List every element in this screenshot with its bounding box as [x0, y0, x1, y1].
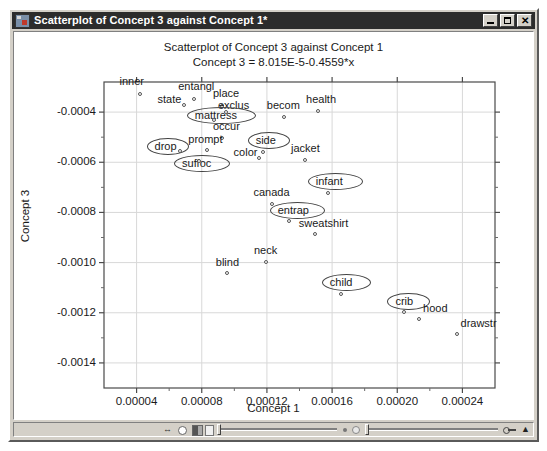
point-label: color: [234, 146, 258, 158]
y-tick-label: -0.0004: [34, 105, 96, 117]
data-point[interactable]: [192, 97, 196, 101]
data-point[interactable]: [205, 148, 209, 152]
point-label: crib: [395, 295, 413, 307]
data-point[interactable]: [417, 317, 421, 321]
point-label: prompt: [188, 133, 222, 145]
data-point[interactable]: [178, 149, 182, 153]
point-label: state: [157, 93, 181, 105]
y-tick-label: -0.0010: [34, 256, 96, 268]
window-controls: ✕: [483, 14, 535, 27]
key-icon[interactable]: [503, 426, 516, 433]
data-point[interactable]: [339, 292, 343, 296]
light-square-icon[interactable]: [205, 425, 214, 436]
point-label: jacket: [291, 142, 320, 154]
data-point[interactable]: [313, 232, 317, 236]
x-axis-label: Concept 1: [14, 402, 533, 414]
point-label: entrap: [278, 204, 309, 216]
point-label: infant: [316, 175, 343, 187]
undo-arrows-icon[interactable]: ↔: [162, 424, 173, 435]
data-point[interactable]: [225, 271, 229, 275]
y-tick-label: -0.0012: [34, 306, 96, 318]
y-tick-label: -0.0008: [34, 205, 96, 217]
left-slider-track[interactable]: [221, 428, 337, 431]
point-label: becom: [267, 99, 300, 111]
point-label: place: [213, 87, 239, 99]
title-bar[interactable]: Scatterplot of Concept 3 against Concept…: [12, 12, 535, 29]
point-label: hood: [423, 302, 447, 314]
point-label: blind: [216, 256, 239, 268]
data-point[interactable]: [257, 156, 261, 160]
data-point[interactable]: [326, 191, 330, 195]
point-label: drop: [155, 140, 177, 152]
scatterplot: Scatterplot of Concept 3 against Concept…: [14, 32, 533, 419]
point-label: side: [256, 134, 276, 146]
data-point[interactable]: [455, 332, 459, 336]
data-point[interactable]: [264, 260, 268, 264]
data-point[interactable]: [316, 109, 320, 113]
point-label: occur: [213, 120, 240, 132]
circle-icon[interactable]: [178, 426, 187, 435]
y-tick-label: -0.0006: [34, 155, 96, 167]
point-label: drawstr: [461, 317, 497, 329]
data-point[interactable]: [261, 150, 265, 154]
point-label: inner: [119, 75, 143, 87]
minimize-button[interactable]: [483, 14, 498, 27]
y-tick-label: -0.0014: [34, 356, 96, 368]
data-point[interactable]: [402, 310, 406, 314]
slider-tick-dot: [343, 428, 347, 432]
chart-client-area: Scatterplot of Concept 3 against Concept…: [13, 31, 534, 420]
y-axis-label: Concept 3: [19, 171, 31, 261]
data-point[interactable]: [182, 103, 186, 107]
point-label: sweatshirt: [299, 217, 349, 229]
window-title: Scatterplot of Concept 3 against Concept…: [34, 12, 268, 29]
status-bar: ↔ ▲: [13, 422, 534, 437]
maximize-button[interactable]: [500, 14, 515, 27]
slider-handle-dot[interactable]: [352, 426, 360, 434]
data-point[interactable]: [282, 115, 286, 119]
point-label: canada: [253, 186, 289, 198]
point-label: entangl: [178, 80, 214, 92]
close-button[interactable]: ✕: [517, 14, 532, 27]
point-label: health: [306, 93, 336, 105]
data-point[interactable]: [270, 202, 274, 206]
application-icon: [15, 14, 30, 28]
data-point[interactable]: [287, 219, 291, 223]
point-label: child: [330, 276, 353, 288]
data-point[interactable]: [303, 158, 307, 162]
data-point[interactable]: [138, 92, 142, 96]
right-slider-track[interactable]: [369, 428, 498, 431]
point-label: neck: [254, 244, 277, 256]
chevron-up-icon[interactable]: ▲: [521, 424, 530, 435]
half-filled-square-icon[interactable]: [192, 425, 203, 436]
plot-window: Scatterplot of Concept 3 against Concept…: [8, 8, 539, 442]
